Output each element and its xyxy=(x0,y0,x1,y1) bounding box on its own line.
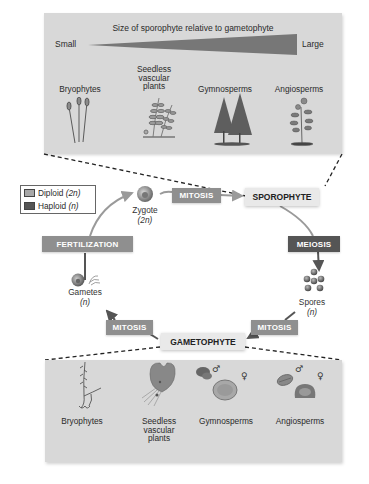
male-symbol-icon: ♂ xyxy=(212,364,220,374)
meiosis-tag: MEIOSIS xyxy=(288,236,340,252)
zygote-cell-icon xyxy=(136,185,154,203)
female-symbol-icon: ♀ xyxy=(317,371,324,381)
diploid-swatch-icon xyxy=(24,189,35,197)
female-symbol-icon: ♀ xyxy=(241,371,248,381)
gametes-icon xyxy=(70,272,104,288)
moss-gametophyte-icon xyxy=(67,360,107,412)
legend-haploid-label: Haploid xyxy=(38,201,66,211)
sporophyte-stage: SPOROPHYTE xyxy=(245,188,319,206)
legend-haploid-ploidy: (n) xyxy=(68,201,78,211)
male-symbol-icon: ♂ xyxy=(295,364,303,374)
fern-prothallus-icon xyxy=(140,360,186,408)
legend-diploid-label: Diploid xyxy=(38,188,63,198)
bottom-label-gymnosperms: Gymnosperms xyxy=(193,417,259,426)
gametes-label: Gametes (n) xyxy=(60,288,110,307)
mitosis-gametes-tag: MITOSIS xyxy=(106,320,153,335)
fertilization-tag: FERTILIZATION xyxy=(42,236,133,252)
legend-diploid-ploidy: (2n) xyxy=(66,188,81,198)
legend-haploid: Haploid (n) xyxy=(21,200,95,212)
pollen-ovule-icon: ♂ ♀ xyxy=(193,364,253,408)
spores-label: Spores (n) xyxy=(290,298,334,317)
gametophyte-stage: GAMETOPHYTE xyxy=(161,333,245,350)
spores-icon xyxy=(300,268,328,296)
mitosis-sporophyte-tag: MITOSIS xyxy=(172,188,221,203)
zygote-label: Zygote (2n) xyxy=(123,206,167,225)
haploid-swatch-icon xyxy=(24,202,35,210)
bottom-label-seedless-vascular: Seedless vascular plants xyxy=(129,417,189,443)
bottom-label-bryophytes: Bryophytes xyxy=(53,417,111,426)
gametophyte-panel: ♂ ♀ ♂ ♀ Bryophytes Seedless vascular pla… xyxy=(45,360,342,462)
legend-diploid: Diploid (2n) xyxy=(21,187,95,199)
ploidy-legend: Diploid (2n) Haploid (n) xyxy=(20,185,96,214)
bottom-label-angiosperms: Angiosperms xyxy=(267,417,333,426)
mitosis-spores-tag: MITOSIS xyxy=(251,320,298,335)
pollen-embryo-sac-icon: ♂ ♀ xyxy=(273,364,333,408)
